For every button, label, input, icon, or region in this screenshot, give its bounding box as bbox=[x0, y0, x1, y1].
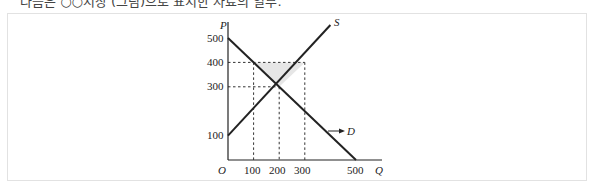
y-tick-500: 500 bbox=[207, 32, 224, 44]
dashed-guides bbox=[228, 62, 305, 160]
origin-label: O bbox=[218, 164, 226, 176]
x-tick-100: 100 bbox=[244, 164, 261, 176]
y-tick-100: 100 bbox=[207, 129, 224, 141]
x-axis-label: Q bbox=[375, 164, 383, 176]
demand-curve bbox=[228, 38, 356, 160]
supply-demand-diagram: P 500 400 300 100 O 100 200 300 500 Q S … bbox=[0, 0, 595, 189]
y-tick-400: 400 bbox=[207, 56, 224, 68]
x-tick-500: 500 bbox=[347, 164, 364, 176]
arrowhead-icon bbox=[339, 129, 345, 134]
demand-label: D bbox=[346, 125, 355, 137]
shaded-area bbox=[254, 62, 305, 86]
y-axis-label: P bbox=[219, 19, 227, 31]
supply-label: S bbox=[334, 16, 340, 28]
x-tick-200: 200 bbox=[269, 164, 286, 176]
x-tick-300: 300 bbox=[294, 164, 311, 176]
y-tick-300: 300 bbox=[207, 80, 224, 92]
